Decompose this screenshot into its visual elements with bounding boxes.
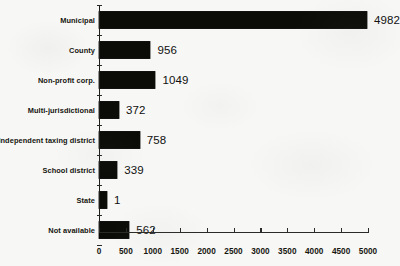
- bar: [99, 12, 367, 29]
- x-axis-tick-label: 500: [119, 247, 133, 256]
- bar-row: School district339: [0, 155, 400, 185]
- x-axis-tick-label: 1500: [170, 247, 188, 256]
- bar: [99, 72, 155, 89]
- category-label: Multi-jurisdictional: [28, 106, 95, 115]
- bar-value-label: 339: [124, 164, 144, 176]
- x-axis-tick: [234, 228, 235, 233]
- x-axis-tick: [126, 228, 127, 233]
- x-axis-tick: [368, 228, 369, 233]
- bar-value-label: 1049: [162, 74, 188, 86]
- bar-row: State1: [0, 185, 400, 215]
- category-label: School district: [42, 166, 95, 175]
- y-axis-tick: [97, 185, 102, 186]
- x-axis-tick-label: 0: [97, 247, 102, 256]
- bar-chart: Municipal4982County956Non-profit corp.10…: [0, 0, 400, 266]
- x-axis-tick-label: 3000: [251, 247, 269, 256]
- x-axis-tick-label: 3500: [278, 247, 296, 256]
- x-axis-tick: [99, 228, 100, 233]
- y-axis-tick: [97, 155, 102, 156]
- bar-row: Multi-jurisdictional372: [0, 95, 400, 125]
- y-axis-tick: [97, 215, 102, 216]
- bar: [99, 162, 117, 179]
- x-axis-tick: [260, 228, 261, 233]
- bar: [99, 102, 119, 119]
- x-axis-tick: [341, 228, 342, 233]
- bar-row: Non-profit corp.1049: [0, 65, 400, 95]
- bar-row: County956: [0, 35, 400, 65]
- y-axis-tick: [97, 125, 102, 126]
- y-axis-tick: [97, 35, 102, 36]
- bar-value-label: 1: [114, 194, 121, 206]
- category-label: State: [77, 196, 95, 205]
- category-label: Independent taxing district: [0, 136, 95, 145]
- bar: [99, 222, 129, 239]
- x-axis-tick-label: 1000: [144, 247, 162, 256]
- bar-row: Municipal4982: [0, 5, 400, 35]
- y-axis-tick: [97, 95, 102, 96]
- bar-value-label: 372: [126, 104, 146, 116]
- x-axis-tick: [287, 228, 288, 233]
- category-label: Non-profit corp.: [38, 76, 95, 85]
- y-axis-tick: [97, 245, 102, 246]
- y-axis-line: [99, 5, 100, 232]
- bar-value-label: 758: [147, 134, 167, 146]
- plot-area: Municipal4982County956Non-profit corp.10…: [0, 0, 400, 266]
- category-label: County: [69, 46, 95, 55]
- x-axis-tick-label: 2500: [224, 247, 242, 256]
- x-axis-tick-label: 4500: [332, 247, 350, 256]
- y-axis-tick: [97, 5, 102, 6]
- bar-value-label: 956: [157, 44, 177, 56]
- bar-row: Not available562: [0, 215, 400, 245]
- bar: [99, 132, 140, 149]
- bar-row: Independent taxing district758: [0, 125, 400, 155]
- category-label: Not available: [48, 226, 95, 235]
- x-axis-tick-label: 2000: [197, 247, 215, 256]
- x-axis-tick: [180, 228, 181, 233]
- x-axis-tick: [153, 228, 154, 233]
- bar: [99, 42, 150, 59]
- bar-value-label: 4982: [374, 14, 400, 26]
- y-axis-tick: [97, 65, 102, 66]
- category-label: Municipal: [60, 16, 95, 25]
- x-axis-tick-label: 4000: [305, 247, 323, 256]
- x-axis-tick: [314, 228, 315, 233]
- x-axis-tick-label: 5000: [359, 247, 377, 256]
- x-axis-tick: [207, 228, 208, 233]
